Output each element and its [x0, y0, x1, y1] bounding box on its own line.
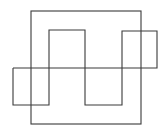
- figure-canvas: [0, 0, 166, 135]
- square-wave-shape: [13, 30, 157, 105]
